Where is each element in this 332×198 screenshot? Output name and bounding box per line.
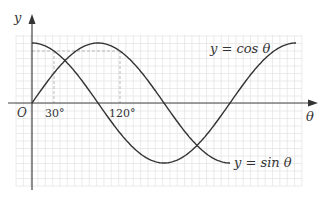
- x-axis-label: θ: [306, 109, 314, 124]
- y-axis-arrow-icon: [29, 14, 36, 24]
- sin-label: y = sin θ: [233, 155, 292, 170]
- x-axis-arrow-icon: [308, 100, 318, 107]
- origin-label: O: [17, 106, 27, 120]
- trig-chart: y θ O 30° 120° y = cos θ y = sin θ: [0, 0, 332, 198]
- y-axis-label: y: [13, 10, 22, 25]
- cos-label: y = cos θ: [209, 41, 270, 56]
- tick-120: 120°: [109, 107, 136, 120]
- tick-30: 30°: [45, 107, 65, 120]
